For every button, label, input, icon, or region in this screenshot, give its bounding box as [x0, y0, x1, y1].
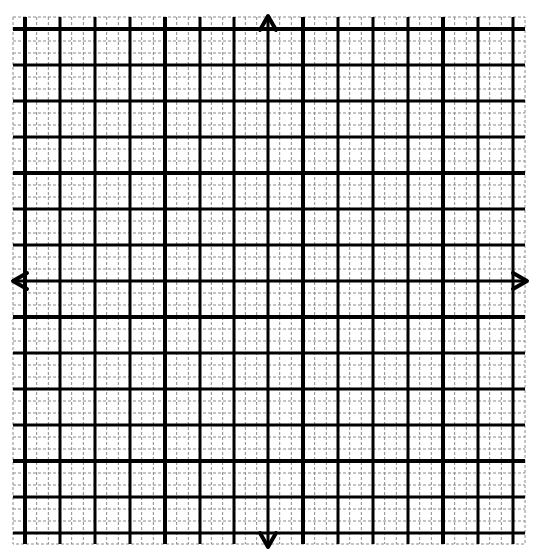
coordinate-grid — [0, 0, 541, 557]
grid-lines — [13, 17, 525, 544]
